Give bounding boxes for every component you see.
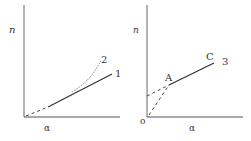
right-x-axis-label: α <box>189 123 195 133</box>
point-a-label: A <box>164 72 173 83</box>
diagram-canvas: n α 2 1 n α o A C 3 <box>0 0 251 141</box>
point-c-label: C <box>206 51 214 62</box>
line-1-label: 1 <box>115 68 121 79</box>
origin-label: o <box>140 116 145 126</box>
line-3-intercept-extrapolation <box>147 85 169 96</box>
right-y-axis-label: n <box>133 25 139 35</box>
left-panel: n α 2 1 <box>9 5 121 133</box>
left-y-axis-label: n <box>9 24 15 35</box>
right-panel: n α o A C 3 <box>133 5 243 133</box>
line-1 <box>48 74 112 107</box>
curve-2-label: 2 <box>101 54 107 65</box>
line-3-label: 3 <box>222 56 228 67</box>
line-3 <box>169 63 214 85</box>
left-x-axis-label: α <box>44 123 50 133</box>
line-1-extrapolation <box>26 107 48 116</box>
